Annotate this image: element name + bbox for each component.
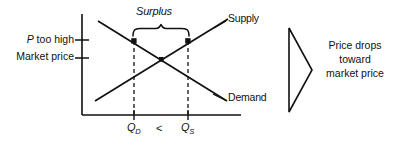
callout-line-3: market price xyxy=(318,66,392,80)
qs-subscript: S xyxy=(189,127,194,136)
surplus-label: Surplus xyxy=(136,5,172,17)
p-symbol: P xyxy=(27,33,34,45)
qd-subscript: D xyxy=(135,127,140,136)
marker-qs-point xyxy=(185,38,190,43)
surplus-brace xyxy=(133,25,189,37)
axis-label-market-price: Market price xyxy=(8,49,74,66)
p-too-high-rest: too high xyxy=(34,33,74,45)
comparison-operator: < xyxy=(156,122,162,134)
right-pointing-arrow-icon xyxy=(289,28,312,112)
callout-line-2: toward xyxy=(318,52,392,66)
demand-curve-label: Demand xyxy=(228,91,267,103)
callout-text-block: Price drops toward market price xyxy=(318,38,392,80)
callout-line-1: Price drops xyxy=(318,38,392,52)
marker-equilibrium-point xyxy=(159,57,164,62)
supply-demand-surplus-figure: P too high Market price Surplus Supply D… xyxy=(0,0,394,149)
qd-axis-label: QD xyxy=(127,121,141,138)
supply-curve-label: Supply xyxy=(228,12,259,24)
demand-leader-line xyxy=(213,94,225,100)
supply-leader-line xyxy=(214,21,226,28)
marker-qd-point xyxy=(131,38,136,43)
axis-label-p-too-high: P too high xyxy=(8,32,74,49)
qs-axis-label: QS xyxy=(181,121,194,138)
price-axis-labels: P too high Market price xyxy=(8,32,74,66)
